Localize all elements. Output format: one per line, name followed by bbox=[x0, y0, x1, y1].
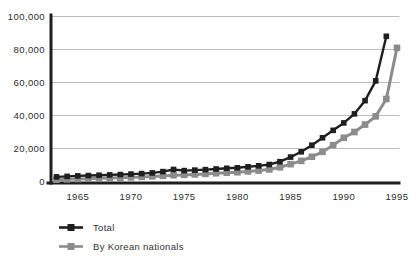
total-marker-1980 bbox=[235, 165, 241, 171]
by-korean-nationals-marker-1989 bbox=[330, 142, 337, 149]
y-tick-label-0: 0 bbox=[39, 176, 45, 187]
total-marker-1986 bbox=[298, 149, 304, 155]
by-korean-nationals-marker-1985 bbox=[287, 161, 294, 168]
x-tick-label-1990: 1990 bbox=[332, 191, 355, 202]
total-marker-1981 bbox=[245, 164, 251, 170]
x-tick-label-1975: 1975 bbox=[173, 191, 196, 202]
korean-nationals-series-swatch-icon bbox=[58, 242, 84, 251]
total-marker-1988 bbox=[320, 135, 326, 141]
total-marker-1969 bbox=[118, 172, 124, 178]
total-marker-1994 bbox=[384, 34, 390, 40]
x-tick-label-1995: 1995 bbox=[386, 191, 409, 202]
y-tick-label-20000: 20,000 bbox=[14, 143, 45, 154]
x-tick-label-1980: 1980 bbox=[226, 191, 249, 202]
legend-label-total: Total bbox=[93, 222, 115, 233]
y-tick-label-40000: 40,000 bbox=[14, 110, 45, 121]
korean-nationals-swatch-marker bbox=[68, 243, 75, 250]
total-marker-1976 bbox=[192, 167, 198, 173]
by-korean-nationals-marker-1990 bbox=[340, 134, 347, 141]
total-marker-1989 bbox=[330, 128, 336, 134]
legend-label-korean-nationals: By Korean nationals bbox=[93, 241, 184, 252]
total-marker-1971 bbox=[139, 171, 145, 177]
chart-page: 020,00040,00060,00080,000100,00019651970… bbox=[0, 0, 418, 269]
by-korean-nationals-marker-1992 bbox=[362, 121, 369, 128]
x-tick-label-1965: 1965 bbox=[66, 191, 89, 202]
by-korean-nationals-marker-1995 bbox=[394, 45, 401, 52]
total-marker-1987 bbox=[309, 142, 315, 148]
total-marker-1993 bbox=[373, 78, 379, 84]
by-korean-nationals-marker-1991 bbox=[351, 129, 358, 136]
by-korean-nationals-marker-1994 bbox=[383, 96, 390, 103]
by-korean-nationals-marker-1984 bbox=[277, 164, 284, 171]
y-tick-label-80000: 80,000 bbox=[14, 44, 45, 55]
total-marker-1966 bbox=[86, 173, 92, 179]
total-swatch-marker bbox=[68, 224, 75, 231]
total-marker-1984 bbox=[277, 159, 283, 165]
line-chart: 020,00040,00060,00080,000100,00019651970… bbox=[0, 0, 418, 215]
x-tick-label-1970: 1970 bbox=[120, 191, 143, 202]
by-korean-nationals-marker-1993 bbox=[372, 113, 379, 120]
total-marker-1979 bbox=[224, 166, 230, 172]
by-korean-nationals-marker-1987 bbox=[309, 153, 316, 160]
total-marker-1992 bbox=[362, 98, 368, 104]
total-marker-1972 bbox=[149, 170, 155, 176]
by-korean-nationals-marker-1988 bbox=[319, 149, 326, 156]
total-marker-1983 bbox=[267, 162, 273, 168]
total-marker-1990 bbox=[341, 120, 347, 126]
by-korean-nationals-marker-1974 bbox=[170, 172, 177, 179]
total-marker-1991 bbox=[352, 111, 358, 117]
total-marker-1963 bbox=[54, 174, 60, 180]
total-marker-1964 bbox=[64, 174, 70, 180]
total-marker-1968 bbox=[107, 172, 113, 178]
total-series-line bbox=[57, 36, 387, 177]
total-marker-1978 bbox=[213, 166, 219, 172]
total-marker-1982 bbox=[256, 163, 262, 169]
total-marker-1973 bbox=[160, 169, 166, 175]
total-marker-1965 bbox=[75, 173, 81, 179]
by-korean-nationals-series-line bbox=[57, 48, 397, 180]
y-tick-label-60000: 60,000 bbox=[14, 77, 45, 88]
x-tick-label-1985: 1985 bbox=[279, 191, 302, 202]
total-series-swatch-icon bbox=[58, 223, 84, 232]
total-marker-1975 bbox=[181, 168, 187, 174]
legend-item-total: Total bbox=[58, 221, 184, 234]
total-marker-1977 bbox=[203, 167, 209, 173]
y-tick-label-100000: 100,000 bbox=[8, 11, 45, 22]
legend-item-korean-nationals: By Korean nationals bbox=[58, 240, 184, 253]
total-marker-1974 bbox=[171, 167, 177, 173]
total-marker-1967 bbox=[96, 172, 102, 178]
total-marker-1970 bbox=[128, 171, 134, 177]
total-marker-1985 bbox=[288, 154, 294, 160]
chart-legend: Total By Korean nationals bbox=[58, 221, 184, 253]
by-korean-nationals-marker-1986 bbox=[298, 158, 305, 165]
